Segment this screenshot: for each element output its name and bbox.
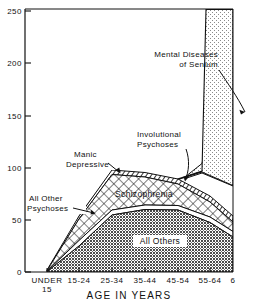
x-axis-title: AGE IN YEARS <box>87 290 172 301</box>
x-tick-label-45-54: 45-54 <box>167 276 190 285</box>
annotation-all-others: All Others <box>133 235 187 247</box>
age-vs-mental-illness-area-chart: 250 200 150 100 50 0 UNDER 15 15-24 25-3… <box>0 0 257 302</box>
x-tick-label-55-64: 55-64 <box>199 276 222 285</box>
annotation-all-other-psychoses-line1: All Other <box>29 194 63 203</box>
x-tick-label-15-24: 15-24 <box>68 276 91 285</box>
annotation-manic-line2: Depressive <box>66 160 109 169</box>
y-tick-label-100: 100 <box>7 164 22 173</box>
y-tick-label-200: 200 <box>7 59 22 68</box>
x-tick-label-under-15-line1: UNDER <box>32 276 63 285</box>
annotation-senium-line1: Mental Diseases <box>154 50 218 59</box>
annotation-manic-depressive: Manic Depressive <box>62 148 121 173</box>
y-tick-label-150: 150 <box>7 112 22 121</box>
annotation-involutional-line1: Involutional <box>137 130 181 139</box>
chart-svg: 250 200 150 100 50 0 UNDER 15 15-24 25-3… <box>0 0 257 302</box>
annotation-all-other-psychoses: All Other Psychoses <box>26 192 96 215</box>
annotation-all-other-psychoses-line2: Psychoses <box>27 204 68 213</box>
y-tick-label-0: 0 <box>17 268 22 277</box>
annotation-all-others-label: All Others <box>140 236 180 246</box>
annotation-manic-line1: Manic <box>74 150 97 159</box>
x-tick-label-under-15-line2: 15 <box>42 285 52 294</box>
annotation-schizophrenia: Schizophrenia <box>115 189 173 199</box>
x-tick-label-65-plus: 6 <box>231 276 236 285</box>
annotation-involutional-line2: Psychoses <box>137 140 178 149</box>
x-tick-label-35-44: 35-44 <box>134 276 157 285</box>
y-tick-label-250: 250 <box>7 7 22 16</box>
y-tick-label-50: 50 <box>12 216 22 225</box>
annotation-senium-line2: of Senium <box>179 60 218 69</box>
x-tick-label-25-34: 25-34 <box>101 276 124 285</box>
